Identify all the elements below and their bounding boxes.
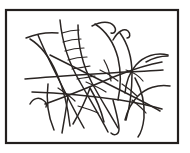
sketch-canvas: Hand-drawn scribble of intersecting curv… [0,0,190,153]
sketch-svg [0,0,190,153]
